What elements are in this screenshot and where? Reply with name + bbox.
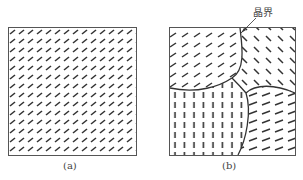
panel-a xyxy=(9,28,137,156)
caption-a: (a) xyxy=(63,160,77,171)
crystal-diagram xyxy=(0,0,303,180)
panel-b xyxy=(170,18,296,156)
caption-b: (b) xyxy=(222,160,236,171)
grain-boundary-label: 晶界 xyxy=(253,4,273,19)
